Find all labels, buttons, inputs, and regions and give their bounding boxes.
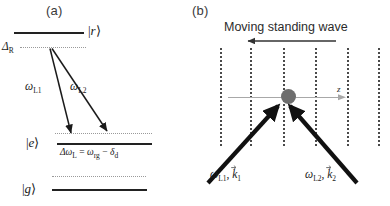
ground-level-line <box>52 189 147 191</box>
beam-2-label: ωL2, k2 <box>305 168 336 180</box>
excited-detuning-dotted-line <box>55 133 152 134</box>
figure-root: (a) |r⟩ ΔR ωL1 ωL2 |e⟩ ΔωL = ωrg − δd |g… <box>0 0 390 206</box>
laser-2-label: ωL2 <box>70 80 86 92</box>
excited-level-label: |e⟩ <box>26 135 39 151</box>
ground-level-label: |g⟩ <box>22 181 36 197</box>
excited-level-line <box>57 143 152 145</box>
beam-1-label: ωL1, k1 <box>210 168 241 180</box>
two-photon-condition-label: ΔωL = ωrg − δd <box>60 147 118 157</box>
laser-1-label: ωL1 <box>25 80 41 92</box>
ground-dotted-line <box>52 176 146 177</box>
